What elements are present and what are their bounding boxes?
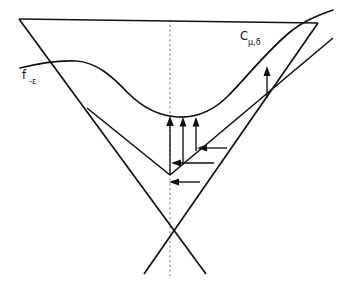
cone-diagram-svg: f -ε C μ,δ <box>0 0 350 286</box>
cone-label-subscript: μ,δ <box>248 38 261 47</box>
curve-label-subscript: -ε <box>29 77 36 86</box>
canvas-background <box>0 0 350 286</box>
figure-container: f -ε C μ,δ <box>0 0 350 286</box>
cone-label-base: C <box>240 29 248 43</box>
